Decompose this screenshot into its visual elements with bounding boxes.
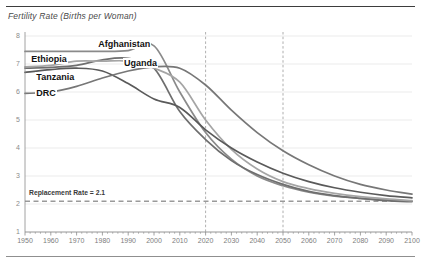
y-tick-4: 4: [6, 144, 20, 151]
series-label-afghanistan: Afghanistan: [97, 39, 151, 49]
y-tick-1: 1: [6, 228, 20, 235]
x-tick-1980: 1980: [88, 237, 116, 244]
x-tick-2030: 2030: [217, 237, 245, 244]
y-tick-2: 2: [6, 200, 20, 207]
x-tick-2100: 2100: [398, 237, 421, 244]
series-label-tanzania: Tanzania: [35, 72, 75, 82]
x-tick-2020: 2020: [192, 237, 220, 244]
y-tick-3: 3: [6, 172, 20, 179]
x-tick-1950: 1950: [11, 237, 39, 244]
series-line-drc: [25, 66, 412, 194]
series-line-afghanistan: [25, 43, 412, 201]
y-tick-7: 7: [6, 60, 20, 67]
x-tick-1970: 1970: [63, 237, 91, 244]
x-tick-2070: 2070: [321, 237, 349, 244]
y-tick-5: 5: [6, 116, 20, 123]
series-line-ethiopia: [25, 58, 412, 202]
x-tick-1960: 1960: [37, 237, 65, 244]
x-tick-2050: 2050: [269, 237, 297, 244]
series-label-ethiopia: Ethiopia: [30, 54, 68, 64]
series-line-tanzania: [25, 68, 412, 198]
chart-root: Fertility Rate (Births per Woman) 876543…: [0, 0, 421, 265]
x-tick-2060: 2060: [295, 237, 323, 244]
series-line-uganda: [25, 61, 412, 201]
x-tick-2090: 2090: [372, 237, 400, 244]
replacement-rate-annotation: Replacement Rate = 2.1: [28, 189, 106, 196]
series-label-uganda: Uganda: [123, 58, 158, 68]
x-tick-2000: 2000: [140, 237, 168, 244]
series-label-drc: DRC: [35, 88, 57, 98]
x-tick-2080: 2080: [346, 237, 374, 244]
x-tick-2040: 2040: [243, 237, 271, 244]
y-tick-8: 8: [6, 32, 20, 39]
x-tick-2010: 2010: [166, 237, 194, 244]
chart-plot-area: [0, 0, 421, 265]
x-tick-1990: 1990: [114, 237, 142, 244]
y-tick-6: 6: [6, 88, 20, 95]
